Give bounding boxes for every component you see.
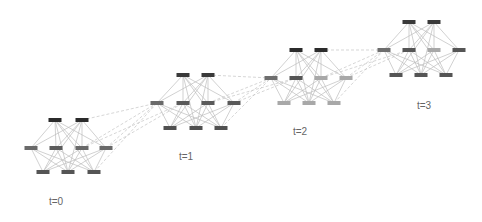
node-t2-i [328,101,341,105]
node-t3-f [453,48,466,52]
edge-t0-f-g [43,148,106,172]
node-t3-c [378,48,391,52]
edge-t1-f-i [221,103,234,128]
node-t3-d [403,48,416,52]
node-t0-f [100,146,113,150]
node-t1-h [190,126,203,130]
node-t3-g [390,73,403,77]
node-t1-d [177,101,190,105]
node-t0-h [62,170,75,174]
time-label-t2: t=2 [293,126,308,137]
node-t3-h [415,73,428,77]
edge-t0-b-c [31,120,82,148]
temporal-link-t2-t3 [321,50,384,78]
temporal-network-diagram: t=0 t=1 t=2 t=3 [0,0,482,222]
edge-t0-a-c [31,120,55,148]
node-t2-a [290,48,303,52]
node-layer [25,20,466,174]
node-t2-c [265,76,278,80]
node-t0-g [37,170,50,174]
node-t1-b [202,73,215,77]
edge-t2-a-c [271,50,296,78]
intra-layer-edges [31,22,459,172]
temporal-link-t0-t1 [106,103,157,148]
edge-t3-f-g [396,50,459,75]
node-t2-h [303,101,316,105]
edge-t3-a-c [384,22,409,50]
node-t2-f [340,76,353,80]
node-t0-e [76,146,89,150]
node-t3-e [428,48,441,52]
temporal-link-t0-t1 [82,103,157,120]
node-t1-g [164,126,177,130]
edge-t0-b-f [82,120,106,148]
node-t1-i [215,126,228,130]
node-t0-i [88,170,101,174]
node-t0-b [76,118,89,122]
node-t1-a [177,73,190,77]
node-t1-f [228,101,241,105]
temporal-link-t0-t1 [94,103,157,172]
node-t2-b [315,48,328,52]
node-t0-d [50,146,63,150]
node-t2-e [315,76,328,80]
temporal-link-t1-t2 [208,78,296,103]
edge-t1-a-c [157,75,183,103]
time-label-t3: t=3 [417,100,432,111]
node-t1-c [151,101,164,105]
node-t3-i [440,73,453,77]
node-t2-d [290,76,303,80]
node-t3-a [403,20,416,24]
temporal-link-t1-t2 [208,75,271,78]
edge-t2-b-f [321,50,346,78]
node-t0-c [25,146,38,150]
edge-t1-b-f [208,75,234,103]
node-t3-b [428,20,441,24]
edge-t1-c-g [157,103,170,128]
inter-layer-dashed-links [82,50,409,172]
edge-t3-f-i [446,50,459,75]
node-t2-g [278,101,291,105]
time-label-t1: t=1 [179,151,194,162]
node-t1-e [202,101,215,105]
edge-t3-b-f [434,22,459,50]
edge-t0-a-f [55,120,106,148]
time-labels: t=0 t=1 t=2 t=3 [49,100,432,207]
node-t0-a [49,118,62,122]
time-label-t0: t=0 [49,196,64,207]
